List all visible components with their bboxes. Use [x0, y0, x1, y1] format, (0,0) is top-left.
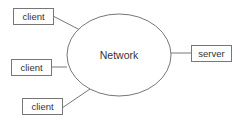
network-node: Network	[67, 14, 171, 96]
client-label-3: client	[31, 101, 54, 112]
client-label-1: client	[22, 11, 45, 22]
edge-client-3-network	[62, 89, 90, 108]
network-diagram: Network client client client server	[0, 0, 241, 123]
edge-client-1-network	[53, 16, 80, 30]
server-label: server	[198, 48, 224, 59]
client-node-2: client	[12, 60, 52, 76]
server-node: server	[192, 46, 232, 62]
client-node-3: client	[23, 99, 63, 115]
client-node-1: client	[14, 9, 54, 25]
network-label: Network	[100, 49, 139, 61]
client-label-2: client	[20, 62, 43, 73]
